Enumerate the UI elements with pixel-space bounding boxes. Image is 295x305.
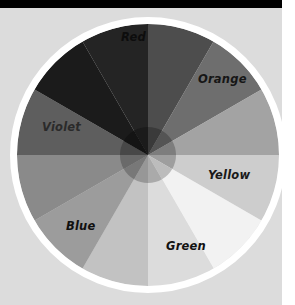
color-wheel-figure: RedOrangeYellowGreenBlueViolet bbox=[0, 8, 282, 305]
wheel-label-green: Green bbox=[166, 239, 206, 253]
screenshot-root: RedOrangeYellowGreenBlueViolet bbox=[0, 0, 295, 305]
right-white-margin bbox=[282, 0, 295, 305]
wheel-label-yellow: Yellow bbox=[208, 168, 250, 182]
wheel-label-orange: Orange bbox=[198, 72, 247, 86]
top-black-bar bbox=[0, 0, 282, 8]
wheel-label-blue: Blue bbox=[66, 219, 96, 233]
wheel-label-red: Red bbox=[121, 30, 146, 44]
wheel-label-violet: Violet bbox=[42, 120, 81, 134]
wheel-hub-group bbox=[120, 127, 176, 183]
color-wheel-svg: RedOrangeYellowGreenBlueViolet bbox=[0, 8, 282, 305]
